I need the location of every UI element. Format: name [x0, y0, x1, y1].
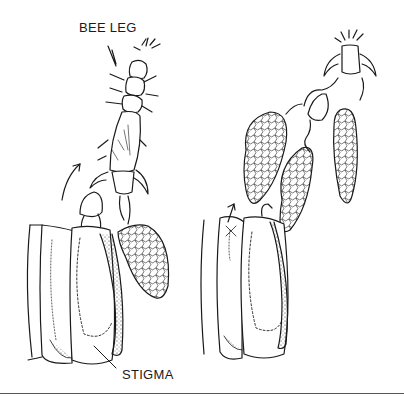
bottom-divider: [0, 393, 404, 394]
left-bee-leg: [62, 38, 160, 200]
line-drawing: [0, 0, 404, 405]
bee-leg-pollinia-illustration: BEE LEG STIGMA: [0, 0, 404, 405]
right-pollinia: [244, 104, 357, 232]
left-flower-column: [27, 225, 122, 368]
stigma-label: STIGMA: [122, 367, 174, 382]
right-flower-column: [201, 204, 288, 359]
bee-leg-label: BEE LEG: [79, 20, 137, 35]
